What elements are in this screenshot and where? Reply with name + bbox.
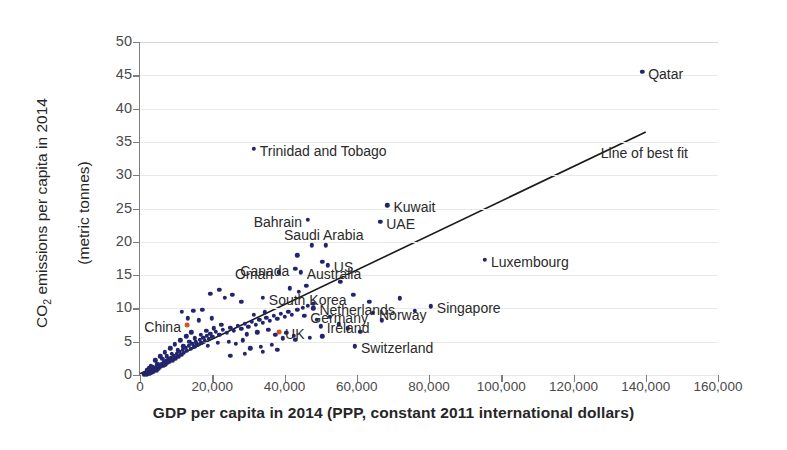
fit-line-label: Line of best fit (601, 146, 688, 160)
y-tick-mark (133, 308, 140, 309)
x-tick-label: 80,000 (408, 379, 449, 394)
country-label: Ireland (327, 321, 370, 335)
x-axis-title: GDP per capita in 2014 (PPP, constant 20… (0, 404, 787, 422)
y-tick-mark (133, 175, 140, 176)
y-tick-label: 30 (98, 166, 132, 182)
y-tick-mark (133, 142, 140, 143)
gridline-y (140, 75, 718, 76)
y-tick-label: 40 (98, 100, 132, 116)
y-axis-title-text: CO2 emissions per capita in 2014 (33, 98, 50, 328)
scatter-chart: CO2 emissions per capita in 2014 (metric… (0, 0, 787, 450)
country-label: Oman (235, 267, 273, 281)
country-label: Norway (379, 308, 426, 322)
y-tick-mark (133, 375, 140, 376)
gridline-y (140, 42, 718, 43)
gridline-y (140, 308, 718, 309)
x-tick-label: 120,000 (549, 379, 598, 394)
country-label: Australia (307, 267, 361, 281)
gridline-y (140, 275, 718, 276)
country-label: UK (285, 327, 304, 341)
y-tick-label: 25 (98, 200, 132, 216)
country-label: Saudi Arabia (284, 228, 363, 242)
country-label: Luxembourg (491, 255, 569, 269)
country-label: China (144, 320, 181, 334)
y-tick-label: 45 (98, 66, 132, 82)
x-tick-label: 140,000 (621, 379, 670, 394)
y-tick-mark (133, 209, 140, 210)
y-axis-title-line2: (metric tonnes) (75, 161, 92, 264)
gridline-y (140, 242, 718, 243)
y-tick-label: 20 (98, 233, 132, 249)
country-label: Singapore (437, 301, 501, 315)
y-tick-label: 0 (98, 366, 132, 382)
country-label: Kuwait (393, 200, 435, 214)
y-tick-label: 15 (98, 266, 132, 282)
country-label: Trinidad and Tobago (260, 144, 387, 158)
y-tick-label: 35 (98, 133, 132, 149)
y-tick-label: 50 (98, 33, 132, 49)
y-axis-title: CO2 emissions per capita in 2014 (metric… (12, 48, 94, 378)
y-tick-mark (133, 242, 140, 243)
x-tick-label: 20,000 (192, 379, 233, 394)
y-tick-label: 10 (98, 299, 132, 315)
country-label: UAE (386, 217, 415, 231)
y-tick-mark (133, 109, 140, 110)
data-point (277, 329, 282, 334)
data-point (185, 323, 190, 328)
country-label: Switzerland (361, 341, 433, 355)
y-tick-mark (133, 75, 140, 76)
gridline-y (140, 142, 718, 143)
y-tick-label: 5 (98, 333, 132, 349)
y-tick-mark (133, 342, 140, 343)
x-tick-label: 60,000 (336, 379, 377, 394)
y-tick-mark (133, 275, 140, 276)
x-tick-label: 40,000 (264, 379, 305, 394)
gridline-y (140, 175, 718, 176)
country-label: Qatar (648, 67, 683, 81)
gridline-y (140, 109, 718, 110)
x-tick-label: 160,000 (694, 379, 743, 394)
x-tick-label: 100,000 (477, 379, 526, 394)
x-tick-label: 0 (136, 379, 144, 394)
y-tick-mark (133, 42, 140, 43)
